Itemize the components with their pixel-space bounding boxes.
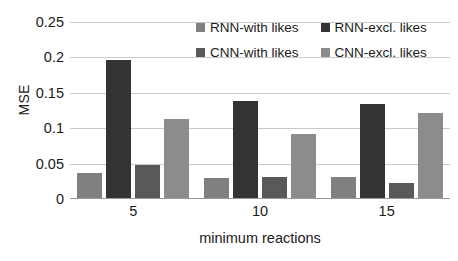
y-axis-tick-label: 0 xyxy=(20,192,64,207)
y-axis-tick-label: 0.05 xyxy=(20,157,64,172)
legend-swatch-icon xyxy=(196,48,205,57)
bar xyxy=(418,113,443,199)
y-axis-tick-label: 0.25 xyxy=(20,15,64,30)
legend-item[interactable]: RNN-excl. likes xyxy=(321,21,427,35)
legend-swatch-icon xyxy=(321,48,330,57)
x-axis-line xyxy=(70,198,450,200)
legend-item[interactable]: RNN-with likes xyxy=(196,21,299,35)
y-axis-tick-label: 0.2 xyxy=(20,50,64,65)
legend-swatch-icon xyxy=(321,23,330,32)
x-axis-title: minimum reactions xyxy=(70,230,450,246)
bar-group xyxy=(70,22,197,199)
y-axis-tick-label: 0.1 xyxy=(20,121,64,136)
x-axis-tick-label: 10 xyxy=(197,203,324,219)
bar xyxy=(233,101,258,199)
y-axis-tick-labels: 00.050.10.150.20.25 xyxy=(14,0,64,261)
legend-item[interactable]: CNN-with likes xyxy=(196,46,299,60)
x-axis-tick-label: 15 xyxy=(323,203,450,219)
legend-label: RNN-excl. likes xyxy=(335,21,427,35)
legend-label: CNN-excl. likes xyxy=(335,46,427,60)
x-axis-tick-labels: 51015 xyxy=(70,203,450,219)
y-axis-tick-label: 0.15 xyxy=(20,86,64,101)
bar xyxy=(135,165,160,199)
bar xyxy=(360,104,385,199)
bar-chart: MSE 00.050.10.150.20.25 51015 minimum re… xyxy=(0,0,458,261)
legend-label: RNN-with likes xyxy=(210,21,299,35)
bar xyxy=(106,60,131,199)
bar xyxy=(204,178,229,199)
legend-label: CNN-with likes xyxy=(210,46,299,60)
legend-item[interactable]: CNN-excl. likes xyxy=(321,46,427,60)
bar xyxy=(164,119,189,199)
bar xyxy=(331,177,356,199)
x-axis-tick-label: 5 xyxy=(70,203,197,219)
bar xyxy=(77,173,102,199)
bar xyxy=(291,134,316,199)
bar xyxy=(262,177,287,199)
chart-legend: RNN-with likesRNN-excl. likesCNN-with li… xyxy=(196,21,427,59)
legend-swatch-icon xyxy=(196,23,205,32)
